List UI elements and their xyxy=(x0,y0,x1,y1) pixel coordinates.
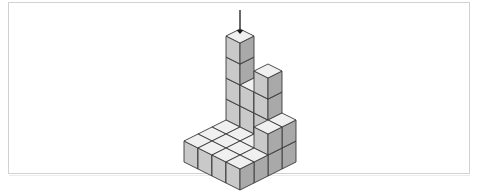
stack-r3-c3-cube-0 xyxy=(226,155,254,190)
down-arrow xyxy=(237,10,244,34)
stack-r0-c2-cube-3 xyxy=(254,64,282,99)
isometric-cube-scene xyxy=(0,0,479,193)
cubes-layer xyxy=(184,29,296,190)
stack-r0-c0-cube-4 xyxy=(226,29,254,64)
figure-stage: Isometric cube stack figure A three-dime… xyxy=(0,0,479,193)
